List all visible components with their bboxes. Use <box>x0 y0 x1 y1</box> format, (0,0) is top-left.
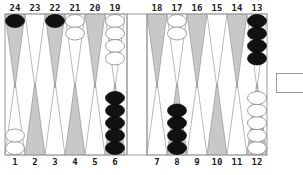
white-checker[interactable] <box>6 142 25 155</box>
bar <box>127 14 147 155</box>
point-label-8: 8 <box>174 157 179 167</box>
doubling-cube[interactable] <box>276 73 303 93</box>
white-checker[interactable] <box>248 104 267 117</box>
point-label-1: 1 <box>12 157 17 167</box>
top-point-labels: 242322212019181716151413 <box>10 3 263 13</box>
point-label-4: 4 <box>72 157 78 167</box>
point-label-19: 19 <box>110 3 121 13</box>
point-9-triangle[interactable] <box>187 81 207 155</box>
point-label-3: 3 <box>52 157 57 167</box>
point-10-triangle[interactable] <box>207 81 227 155</box>
black-checker[interactable] <box>248 52 267 65</box>
white-checker[interactable] <box>248 92 267 105</box>
point-5-triangle[interactable] <box>85 81 105 155</box>
point-label-23: 23 <box>30 3 41 13</box>
point-label-22: 22 <box>50 3 61 13</box>
white-checker[interactable] <box>106 52 125 65</box>
black-checker[interactable] <box>168 104 187 117</box>
black-checker[interactable] <box>168 129 187 142</box>
point-3-triangle[interactable] <box>45 81 65 155</box>
point-label-21: 21 <box>70 3 81 13</box>
black-checker[interactable] <box>168 142 187 155</box>
point-label-11: 11 <box>232 157 243 167</box>
white-checker[interactable] <box>168 15 187 28</box>
point-label-24: 24 <box>10 3 21 13</box>
point-label-6: 6 <box>112 157 117 167</box>
white-checker[interactable] <box>248 142 267 155</box>
point-label-5: 5 <box>92 157 97 167</box>
white-checker[interactable] <box>106 27 125 40</box>
white-checker[interactable] <box>248 129 267 142</box>
point-label-2: 2 <box>32 157 37 167</box>
points <box>5 14 267 155</box>
point-label-17: 17 <box>172 3 183 13</box>
point-label-7: 7 <box>154 157 159 167</box>
black-checker[interactable] <box>248 40 267 53</box>
point-label-10: 10 <box>212 157 223 167</box>
point-label-16: 16 <box>192 3 203 13</box>
point-14-triangle[interactable] <box>227 14 247 88</box>
black-checker[interactable] <box>168 117 187 130</box>
point-label-15: 15 <box>212 3 223 13</box>
point-15-triangle[interactable] <box>207 14 227 88</box>
black-checker[interactable] <box>106 117 125 130</box>
backgammon-board: 242322212019181716151413 123456789101112 <box>0 0 303 175</box>
point-11-triangle[interactable] <box>227 81 247 155</box>
point-label-9: 9 <box>194 157 199 167</box>
board-frame <box>5 14 267 155</box>
black-checker[interactable] <box>248 27 267 40</box>
white-checker[interactable] <box>66 27 85 40</box>
point-20-triangle[interactable] <box>85 14 105 88</box>
point-label-12: 12 <box>252 157 263 167</box>
point-label-18: 18 <box>152 3 163 13</box>
checkers <box>6 15 267 155</box>
black-checker[interactable] <box>106 142 125 155</box>
white-checker[interactable] <box>6 129 25 142</box>
white-checker[interactable] <box>248 117 267 130</box>
point-label-20: 20 <box>90 3 101 13</box>
point-4-triangle[interactable] <box>65 81 85 155</box>
white-checker[interactable] <box>106 40 125 53</box>
point-7-triangle[interactable] <box>147 81 167 155</box>
black-checker[interactable] <box>106 92 125 105</box>
point-23-triangle[interactable] <box>25 14 45 88</box>
point-18-triangle[interactable] <box>147 14 167 88</box>
black-checker[interactable] <box>106 129 125 142</box>
point-16-triangle[interactable] <box>187 14 207 88</box>
point-label-14: 14 <box>232 3 243 13</box>
white-checker[interactable] <box>168 27 187 40</box>
black-checker[interactable] <box>6 15 25 28</box>
point-2-triangle[interactable] <box>25 81 45 155</box>
white-checker[interactable] <box>66 15 85 28</box>
black-checker[interactable] <box>248 15 267 28</box>
black-checker[interactable] <box>106 104 125 117</box>
white-checker[interactable] <box>106 15 125 28</box>
bottom-point-labels: 123456789101112 <box>12 157 262 167</box>
point-label-13: 13 <box>252 3 263 13</box>
black-checker[interactable] <box>46 15 65 28</box>
